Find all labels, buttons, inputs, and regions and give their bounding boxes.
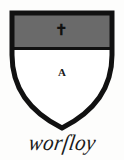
heraldry-plate: ✝ A worſloy: [0, 0, 124, 160]
inscription-line: worſloy: [0, 128, 124, 160]
inscription-name-worsley: worſloy: [26, 128, 98, 159]
shield-drawing: ✝ A: [0, 0, 124, 132]
chief-charge-icon: ✝: [55, 22, 68, 38]
field-letter-a: A: [58, 66, 66, 78]
